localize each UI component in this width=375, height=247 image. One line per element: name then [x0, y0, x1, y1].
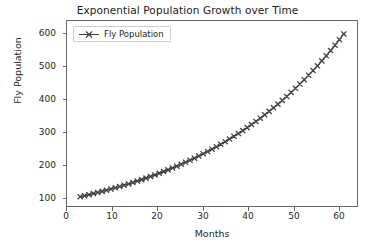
data-series-svg	[67, 21, 357, 206]
x-tick-mark-10	[112, 207, 113, 211]
figure-canvas: Exponential Population Growth over Time …	[0, 0, 375, 247]
y-tick-label-200: 200	[20, 160, 56, 170]
x-tick-mark-30	[203, 207, 204, 211]
x-tick-mark-60	[339, 207, 340, 211]
plot-area: Fly Population	[66, 20, 358, 207]
y-tick-label-500: 500	[20, 61, 56, 71]
x-tick-label-40: 40	[228, 211, 268, 221]
legend-label: Fly Population	[104, 29, 164, 39]
x-axis-label: Months	[66, 228, 358, 239]
y-tick-label-600: 600	[20, 28, 56, 38]
chart-title: Exponential Population Growth over Time	[0, 4, 375, 16]
x-tick-mark-40	[248, 207, 249, 211]
x-tick-label-0: 0	[46, 211, 86, 221]
y-tick-label-400: 400	[20, 94, 56, 104]
x-tick-label-30: 30	[183, 211, 223, 221]
x-tick-label-60: 60	[319, 211, 359, 221]
x-tick-label-50: 50	[274, 211, 314, 221]
legend-line-marker-icon	[78, 30, 100, 39]
series-fly-population	[78, 31, 347, 199]
legend[interactable]: Fly Population	[73, 26, 171, 42]
x-tick-mark-50	[294, 207, 295, 211]
x-tick-label-10: 10	[92, 211, 132, 221]
x-tick-label-20: 20	[137, 211, 177, 221]
x-tick-mark-0	[66, 207, 67, 211]
y-tick-label-300: 300	[20, 127, 56, 137]
y-tick-label-100: 100	[20, 193, 56, 203]
x-tick-mark-20	[157, 207, 158, 211]
